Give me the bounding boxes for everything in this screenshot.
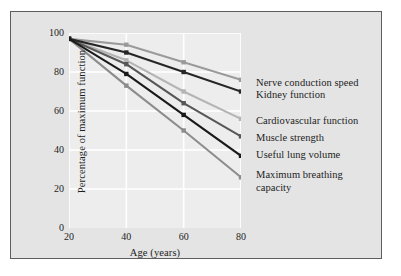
x-tick-label: 80: [236, 232, 246, 242]
series-marker: [181, 89, 185, 93]
x-axis-title: Age (years): [69, 247, 241, 258]
legend-entry: Cardiovascular function: [256, 115, 358, 128]
series-marker: [239, 78, 241, 82]
series-marker: [181, 70, 185, 74]
x-tick-label: 20: [64, 232, 74, 242]
series-marker: [181, 101, 185, 105]
legend-entry: Kidney function: [256, 89, 325, 102]
series-line: [69, 39, 241, 177]
series-marker: [239, 154, 241, 158]
series-marker: [124, 72, 128, 76]
series-marker: [239, 134, 241, 138]
x-tick-label: 40: [121, 232, 131, 242]
series-marker: [181, 60, 185, 64]
series-marker: [69, 37, 71, 41]
series-useful-lung-volume: [69, 37, 241, 158]
y-tick-label: 100: [49, 28, 64, 38]
series-line: [69, 39, 241, 156]
x-tick-label: 60: [179, 232, 189, 242]
figure-panel: Percentage of maximum function 020406080…: [10, 11, 382, 259]
legend-entry: Maximum breathing capacity: [256, 169, 343, 194]
series-marker: [239, 117, 241, 121]
y-tick-label: 60: [54, 106, 64, 116]
series-marker: [124, 50, 128, 54]
y-tick-label: 20: [54, 184, 64, 194]
series-kidney-function: [69, 37, 241, 94]
series-marker: [181, 113, 185, 117]
series-marker: [239, 175, 241, 179]
plot-area: Percentage of maximum function 020406080…: [69, 33, 241, 228]
series-marker: [124, 58, 128, 62]
series-marker: [124, 62, 128, 66]
series-muscle-strength: [69, 37, 241, 139]
y-tick-label: 80: [54, 67, 64, 77]
series-marker: [239, 89, 241, 93]
plot-canvas: [69, 33, 241, 228]
series-marker: [124, 43, 128, 47]
series-maximum-breathing-capacity: [69, 37, 241, 180]
legend-entry: Nerve conduction speed: [256, 77, 359, 90]
series-marker: [124, 83, 128, 87]
chart-legend: Nerve conduction speedKidney functionCar…: [256, 33, 396, 228]
legend-entry: Useful lung volume: [256, 149, 340, 162]
y-tick-label: 40: [54, 145, 64, 155]
legend-entry: Muscle strength: [256, 132, 324, 145]
y-axis-title: Percentage of maximum function: [76, 0, 87, 272]
figure-root: Percentage of maximum function 020406080…: [0, 0, 401, 276]
series-marker: [181, 128, 185, 132]
